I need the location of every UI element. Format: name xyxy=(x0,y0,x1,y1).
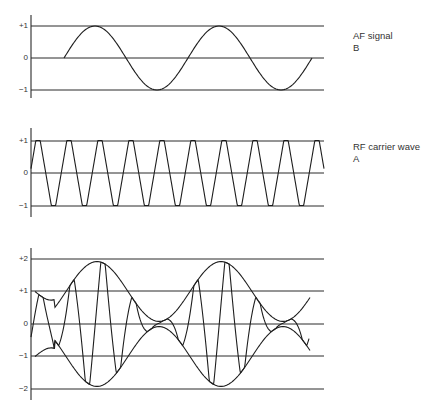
tick-label: −1 xyxy=(14,201,28,210)
tick-label: −2 xyxy=(14,384,28,393)
rf-carrier-label: RF carrier wave A xyxy=(353,141,420,165)
tick-label: 0 xyxy=(14,319,28,328)
af-signal-label: AF signal B xyxy=(353,30,393,54)
am-modulation-diagram xyxy=(0,0,442,419)
tick-label: 0 xyxy=(14,53,28,62)
tick-label: +1 xyxy=(14,21,28,30)
rf-carrier-letter: A xyxy=(353,153,420,165)
tick-label: +1 xyxy=(14,136,28,145)
tick-label: −1 xyxy=(14,351,28,360)
af-signal-title: AF signal xyxy=(353,30,393,42)
tick-label: +1 xyxy=(14,286,28,295)
rf-carrier-title: RF carrier wave xyxy=(353,141,420,153)
modulated-wave-panel xyxy=(31,248,324,400)
tick-label: 0 xyxy=(14,168,28,177)
af-signal-letter: B xyxy=(353,42,393,54)
af-signal-panel xyxy=(31,15,324,98)
tick-label: −1 xyxy=(14,85,28,94)
rf-carrier-panel xyxy=(31,128,324,217)
tick-label: +2 xyxy=(14,254,28,263)
